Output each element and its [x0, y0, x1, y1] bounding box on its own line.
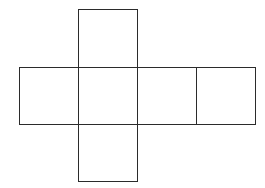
face-far-right	[196, 67, 256, 125]
face-bottom	[78, 124, 138, 182]
face-center	[78, 67, 138, 125]
face-right	[137, 67, 197, 125]
cube-net-diagram	[0, 0, 265, 188]
face-left	[19, 67, 79, 125]
face-top	[78, 9, 138, 68]
